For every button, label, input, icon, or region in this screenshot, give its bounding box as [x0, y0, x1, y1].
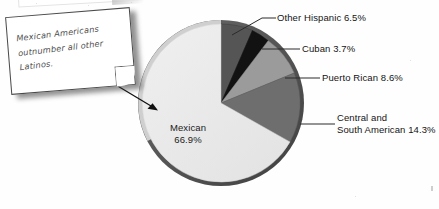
pie-label-central-south-american-line1: Central and [337, 112, 436, 124]
leader-line-other-hispanic [232, 18, 276, 35]
callout-note: Mexican Americans outnumber all other La… [5, 7, 136, 95]
pie-label-central-south-american: Central and South American 14.3% [337, 112, 436, 135]
callout-note-text: Mexican Americans outnumber all other La… [15, 19, 125, 75]
callout-note-folded-corner [114, 65, 136, 87]
pie-label-cuban: Cuban 3.7% [302, 43, 355, 55]
pie-label-other-hispanic-text: Other Hispanic 6.5% [277, 12, 366, 24]
pie-label-other-hispanic: Other Hispanic 6.5% [277, 12, 366, 24]
figure-canvas: Mexican 66.9% Other Hispanic 6.5% Cuban … [0, 0, 439, 209]
pie-label-puerto-rican-text: Puerto Rican 8.6% [322, 72, 403, 84]
pie-label-central-south-american-line2: South American 14.3% [337, 124, 436, 136]
pie-label-cuban-text: Cuban 3.7% [302, 43, 355, 55]
scan-artifact-dot [431, 186, 433, 191]
pie-label-puerto-rican: Puerto Rican 8.6% [322, 72, 403, 84]
